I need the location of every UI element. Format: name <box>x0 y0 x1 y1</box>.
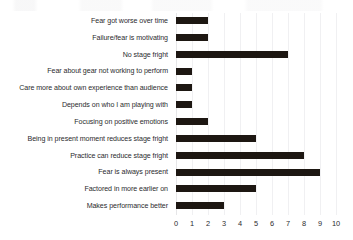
bar-row <box>176 181 336 198</box>
bar <box>176 51 288 58</box>
bar-row <box>176 131 336 148</box>
bar <box>176 34 208 41</box>
bar <box>176 135 256 142</box>
bar-row <box>176 64 336 81</box>
category-label: No stage fright <box>0 51 168 59</box>
bar-row <box>176 30 336 47</box>
bar <box>176 202 224 209</box>
bar-row <box>176 47 336 64</box>
bar-row <box>176 198 336 215</box>
x-tick-label: 2 <box>206 219 210 229</box>
bar-row <box>176 148 336 165</box>
horizontal-bar-chart: Fear got worse over timeFailure/fear is … <box>0 0 353 240</box>
bar-row <box>176 80 336 97</box>
category-label: Care more about own experience than audi… <box>0 84 168 92</box>
x-axis-tick-labels: 012345678910 <box>176 219 336 233</box>
bar-rows <box>176 13 336 215</box>
scan-artifact-band <box>0 0 353 11</box>
bar <box>176 84 192 91</box>
bar-row <box>176 165 336 182</box>
x-tick-label: 6 <box>270 219 274 229</box>
bar <box>176 17 208 24</box>
category-label: Being in present moment reduces stage fr… <box>0 135 168 143</box>
category-label: Makes performance better <box>0 202 168 210</box>
x-tick-label: 0 <box>174 219 178 229</box>
category-label: Depends on who I am playing with <box>0 101 168 109</box>
bar <box>176 68 192 75</box>
category-axis-labels: Fear got worse over timeFailure/fear is … <box>0 13 172 215</box>
x-tick-label: 8 <box>302 219 306 229</box>
x-tick-label: 5 <box>254 219 258 229</box>
category-label: Failure/fear is motivating <box>0 34 168 42</box>
bar <box>176 152 304 159</box>
bar <box>176 101 192 108</box>
bar <box>176 169 320 176</box>
category-label: Focusing on positive emotions <box>0 118 168 126</box>
bar-row <box>176 97 336 114</box>
x-tick-label: 10 <box>332 219 340 229</box>
x-tick-label: 4 <box>238 219 242 229</box>
x-tick-label: 3 <box>222 219 226 229</box>
category-label: Fear is always present <box>0 168 168 176</box>
x-tick-label: 9 <box>318 219 322 229</box>
x-tick-label: 1 <box>190 219 194 229</box>
category-label: Practice can reduce stage fright <box>0 152 168 160</box>
plot-area <box>176 13 336 215</box>
category-label: Factored in more earlier on <box>0 185 168 193</box>
x-tick-label: 7 <box>286 219 290 229</box>
category-label: Fear about gear not working to perform <box>0 67 168 75</box>
bar <box>176 118 208 125</box>
bar <box>176 185 256 192</box>
category-label: Fear got worse over time <box>0 17 168 25</box>
bar-row <box>176 13 336 30</box>
gridline-10 <box>336 13 337 215</box>
bar-row <box>176 114 336 131</box>
